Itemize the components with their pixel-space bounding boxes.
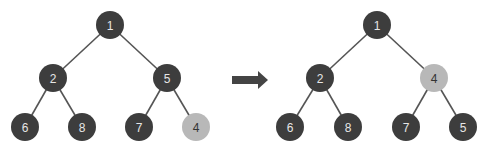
- node-label: 6: [287, 121, 294, 135]
- node-label: 4: [193, 121, 200, 135]
- tree-node: 5: [449, 113, 477, 141]
- node-label: 1: [374, 19, 381, 33]
- node-label: 8: [345, 121, 352, 135]
- node-label: 8: [79, 121, 86, 135]
- tree-node: 6: [11, 113, 39, 141]
- tree-node: 1: [96, 11, 124, 39]
- tree-node: 2: [39, 64, 67, 92]
- right-arrow-icon: [232, 71, 268, 89]
- tree-node: 7: [125, 113, 153, 141]
- tree-node: 8: [334, 113, 362, 141]
- tree-node: 4: [182, 113, 210, 141]
- node-label: 5: [460, 121, 467, 135]
- after-tree: 1246875: [276, 11, 477, 141]
- tree-node: 8: [68, 113, 96, 141]
- node-label: 2: [50, 72, 57, 86]
- tree-node: 6: [276, 113, 304, 141]
- tree-node: 2: [306, 64, 334, 92]
- node-label: 1: [107, 19, 114, 33]
- node-label: 4: [431, 72, 438, 86]
- node-label: 2: [317, 72, 324, 86]
- tree-node: 5: [153, 64, 181, 92]
- tree-node: 7: [392, 113, 420, 141]
- node-label: 7: [403, 121, 410, 135]
- node-label: 7: [136, 121, 143, 135]
- tree-node: 4: [420, 64, 448, 92]
- node-label: 5: [164, 72, 171, 86]
- node-label: 6: [22, 121, 29, 135]
- tree-node: 1: [363, 11, 391, 39]
- heap-swap-diagram: 1256874 1246875: [0, 0, 484, 154]
- before-tree: 1256874: [11, 11, 210, 141]
